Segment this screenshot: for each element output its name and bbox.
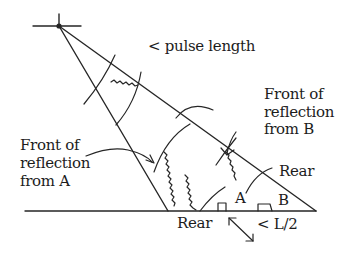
label-front-b-1: Front of (264, 86, 323, 103)
label-front-a-3: from A (20, 173, 70, 190)
label-front-b-2: reflection (264, 104, 334, 121)
label-front-b-3: from B (264, 121, 314, 138)
radar-reflection-diagram: < pulse length Front of reflection from … (0, 0, 362, 254)
label-point-b: B (278, 192, 289, 209)
reflector-a (218, 203, 226, 211)
pulse-upper-rear-arc (116, 72, 141, 125)
ground-wavy (185, 175, 196, 210)
label-pulse-length: < pulse length (148, 38, 255, 55)
half-length-arrow (229, 218, 253, 241)
reflection-b-wavy (226, 152, 236, 180)
label-rear-right: Rear (279, 163, 314, 180)
label-half-length: < L/2 (257, 216, 297, 233)
antenna-icon (33, 14, 81, 29)
label-front-a-2: reflection (20, 155, 90, 172)
pulse-middle-rear-arc (176, 106, 213, 118)
pulse-upper-wavy (111, 80, 138, 86)
pulse-middle-front-arc (154, 124, 190, 172)
label-rear-bottom: Rear (177, 215, 212, 232)
ground-front-arc (200, 187, 225, 211)
label-front-a-1: Front of (20, 137, 79, 154)
reflection-b-rear-arc (246, 168, 272, 193)
pulse-middle-wavy (164, 152, 175, 206)
reflector-b (258, 204, 272, 211)
label-point-a: A (235, 190, 246, 207)
arrow-front-a-head (146, 155, 154, 163)
arrow-front-a (86, 149, 152, 162)
